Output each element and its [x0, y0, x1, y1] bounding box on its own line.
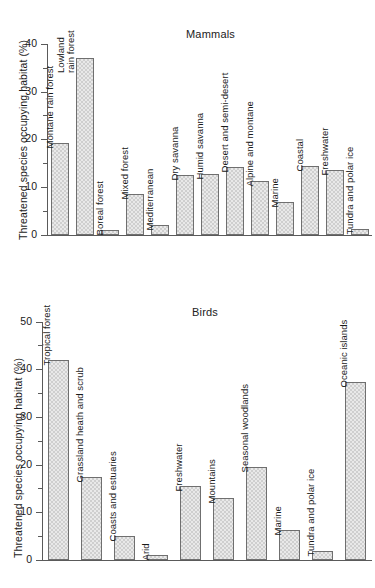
y-axis-minor-tick — [38, 393, 42, 394]
bar-category-label: Montane rain forest — [44, 66, 54, 149]
bar-category-label: Seasonal woodlands — [240, 383, 250, 472]
y-axis-tick-label: 40 — [10, 362, 32, 374]
bar — [301, 166, 319, 235]
bar — [176, 175, 194, 235]
y-axis-major-tick — [36, 465, 42, 466]
y-axis-minor-tick — [38, 488, 42, 489]
bar-category-label: Lowlandrain forest — [56, 30, 75, 73]
plot-area-birds: 01020304050Tropical forestGrassland heat… — [42, 312, 372, 560]
y-axis-major-tick — [41, 187, 47, 188]
y-axis-minor-tick — [43, 163, 47, 164]
bar-category-label: Freshwater — [319, 127, 329, 175]
y-axis-tick-label: 20 — [10, 458, 32, 470]
bar — [81, 477, 102, 560]
bar-category-label: Boreal forest — [94, 181, 104, 236]
bar-category-label: Grassland heath and scrub — [75, 367, 85, 482]
bar-category-label: Dry savanna — [169, 126, 179, 180]
bar-category-label: Marine — [273, 507, 283, 536]
bar-category-label: Tropical forest — [42, 305, 52, 366]
y-axis-major-tick — [41, 235, 47, 236]
bar — [180, 486, 201, 560]
figure-root: Mammals Threatened species occupying hab… — [0, 0, 375, 588]
y-axis-tick-label: 50 — [10, 315, 32, 327]
y-axis-major-tick — [36, 560, 42, 561]
bar — [213, 498, 234, 560]
y-axis-tick-label: 0 — [15, 228, 37, 240]
y-axis-tick-label: 10 — [15, 180, 37, 192]
plot-area-mammals: 010203040Montane rain forestLowlandrain … — [47, 39, 372, 235]
y-axis-minor-tick — [38, 536, 42, 537]
bar — [326, 170, 344, 235]
bar-category-label: Oceanic islands — [339, 319, 349, 387]
bar — [345, 382, 366, 560]
y-axis-minor-tick — [43, 211, 47, 212]
y-axis-minor-tick — [38, 441, 42, 442]
y-axis-tick-label: 10 — [10, 505, 32, 517]
bar — [251, 181, 269, 235]
bar-category-label: Alpine and montane — [244, 102, 254, 187]
bar-category-label: Marine — [269, 178, 279, 207]
footer-strip — [0, 578, 375, 588]
bar — [51, 143, 69, 235]
bar-category-label: Tundra and polar ice — [306, 469, 316, 557]
chart-panel-birds: Birds Threatened species occupying habit… — [0, 290, 375, 588]
bar — [201, 174, 219, 235]
bar-category-label: Coastal — [294, 139, 304, 172]
y-axis-tick-label: 0 — [10, 553, 32, 565]
bar — [126, 194, 144, 235]
bar-category-label: Freshwater — [174, 444, 184, 492]
bar — [48, 360, 69, 560]
bar-category-label: Desert and semi-desert — [219, 72, 229, 172]
y-axis-major-tick — [36, 417, 42, 418]
bar-category-label: Arid — [141, 544, 151, 561]
bar-category-label: Tundra and polar ice — [344, 147, 354, 235]
y-axis-major-tick — [36, 512, 42, 513]
bar — [226, 167, 244, 235]
bar-category-label: Coasts and estuaries — [108, 451, 118, 541]
bar — [246, 467, 267, 560]
y-axis-tick-label: 30 — [10, 410, 32, 422]
bar-category-label: Mediterranean — [144, 169, 154, 231]
bar-category-label: Mixed forest — [119, 148, 129, 200]
y-axis-tick-label: 40 — [15, 37, 37, 49]
y-axis-major-tick — [36, 369, 42, 370]
y-axis-major-tick — [41, 44, 47, 45]
x-axis-line — [42, 560, 372, 561]
bar — [76, 58, 94, 235]
y-axis-tick-label: 20 — [15, 132, 37, 144]
chart-panel-mammals: Mammals Threatened species occupying hab… — [0, 0, 375, 290]
bar-category-label: Humid savanna — [194, 113, 204, 180]
bar-category-label: Mountains — [207, 459, 217, 503]
y-axis-tick-label: 30 — [15, 85, 37, 97]
